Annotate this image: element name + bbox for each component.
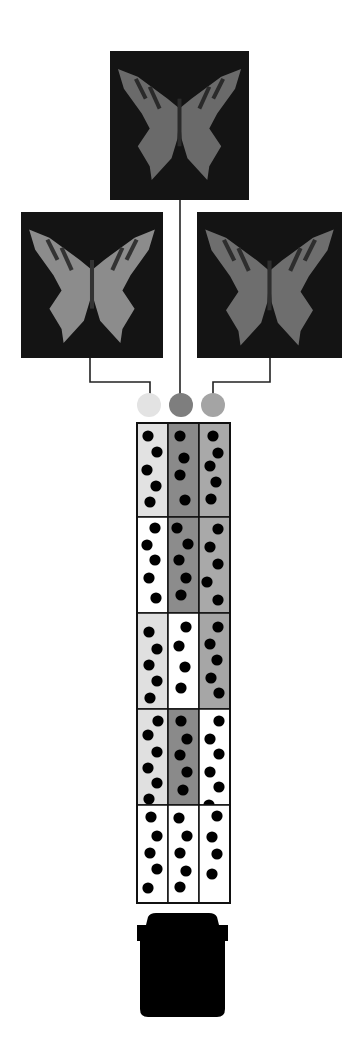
dot xyxy=(150,592,161,603)
dot xyxy=(150,480,161,491)
container-bin xyxy=(137,913,228,1017)
dot xyxy=(151,746,162,757)
dot xyxy=(204,733,215,744)
dot xyxy=(175,715,186,726)
cell-grid xyxy=(137,423,230,903)
dot xyxy=(179,661,190,672)
dot xyxy=(204,638,215,649)
dot xyxy=(142,762,153,773)
dot xyxy=(171,522,182,533)
dot xyxy=(144,692,155,703)
dot xyxy=(180,572,191,583)
butterfly-image-top xyxy=(110,51,249,200)
dot xyxy=(144,847,155,858)
dot xyxy=(144,496,155,507)
diagram-canvas xyxy=(0,0,360,1048)
dot xyxy=(145,811,156,822)
dot xyxy=(210,476,221,487)
dot xyxy=(205,493,216,504)
butterfly-image-left xyxy=(21,212,163,358)
dot xyxy=(149,554,160,565)
dot xyxy=(174,430,185,441)
dot xyxy=(149,522,160,533)
dot xyxy=(213,687,224,698)
dot xyxy=(206,868,217,879)
dot xyxy=(204,460,215,471)
dot xyxy=(174,881,185,892)
dot xyxy=(175,682,186,693)
dot xyxy=(212,558,223,569)
dot xyxy=(212,447,223,458)
dot xyxy=(204,766,215,777)
dot xyxy=(178,452,189,463)
dot xyxy=(180,865,191,876)
dot xyxy=(151,863,162,874)
dot xyxy=(173,812,184,823)
dot xyxy=(141,539,152,550)
dot xyxy=(174,847,185,858)
dot xyxy=(181,733,192,744)
dot xyxy=(211,654,222,665)
dot xyxy=(151,830,162,841)
dot xyxy=(181,766,192,777)
dot xyxy=(173,640,184,651)
dot xyxy=(151,446,162,457)
dot xyxy=(151,777,162,788)
dot xyxy=(143,572,154,583)
dot xyxy=(174,469,185,480)
dot xyxy=(206,831,217,842)
butterfly-body xyxy=(267,261,271,311)
butterfly-body xyxy=(178,99,182,147)
dot xyxy=(182,538,193,549)
dot xyxy=(212,621,223,632)
dot xyxy=(174,749,185,760)
dot xyxy=(142,430,153,441)
dot xyxy=(143,626,154,637)
color-sample-circle-1 xyxy=(137,393,161,417)
dot xyxy=(213,748,224,759)
dot xyxy=(201,576,212,587)
dot xyxy=(173,554,184,565)
dot xyxy=(175,589,186,600)
dot xyxy=(212,523,223,534)
dot xyxy=(143,659,154,670)
dot xyxy=(212,594,223,605)
dot xyxy=(143,793,154,804)
dot xyxy=(213,715,224,726)
color-sample-circle-3 xyxy=(201,393,225,417)
dot xyxy=(213,781,224,792)
dot xyxy=(152,715,163,726)
color-sample-circle-2 xyxy=(169,393,193,417)
grid-cell xyxy=(137,709,168,805)
connector-left xyxy=(90,358,150,394)
butterfly-body xyxy=(90,260,94,309)
dot xyxy=(205,672,216,683)
dot xyxy=(179,494,190,505)
dot xyxy=(142,882,153,893)
dot xyxy=(211,848,222,859)
dot xyxy=(207,430,218,441)
dot xyxy=(181,830,192,841)
dot xyxy=(180,621,191,632)
dot xyxy=(141,464,152,475)
dot xyxy=(211,810,222,821)
butterfly-image-right xyxy=(197,212,342,358)
dot xyxy=(177,784,188,795)
connector-right xyxy=(213,358,270,394)
dot xyxy=(204,541,215,552)
dot xyxy=(142,729,153,740)
dot xyxy=(151,643,162,654)
dot xyxy=(151,675,162,686)
